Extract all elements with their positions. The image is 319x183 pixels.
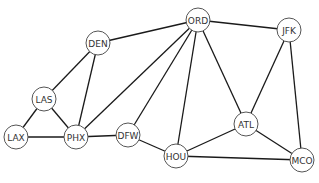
edge-den-phx xyxy=(76,43,98,137)
node-phx: PHX xyxy=(64,125,88,149)
node-label: LAS xyxy=(35,95,52,105)
edge-jfk-mco xyxy=(289,30,302,160)
edge-ord-hou xyxy=(176,20,198,156)
node-label: DFW xyxy=(117,131,138,141)
node-dfw: DFW xyxy=(116,123,140,147)
nodes-layer: DENORDJFKLASLAXPHXDFWHOUATLMCO xyxy=(4,8,314,172)
edge-ord-jfk xyxy=(198,20,289,30)
node-label: MCO xyxy=(291,156,312,166)
edge-den-ord xyxy=(98,20,198,43)
node-lax: LAX xyxy=(4,125,28,149)
node-label: HOU xyxy=(166,152,186,162)
node-label: ORD xyxy=(188,16,208,26)
edges-layer xyxy=(16,20,302,160)
node-label: LAX xyxy=(7,133,25,143)
node-label: JFK xyxy=(281,26,297,36)
edge-ord-atl xyxy=(198,20,246,124)
node-ord: ORD xyxy=(186,8,210,32)
node-mco: MCO xyxy=(290,148,314,172)
node-den: DEN xyxy=(86,31,110,55)
edge-jfk-atl xyxy=(246,30,289,124)
node-jfk: JFK xyxy=(277,18,301,42)
node-atl: ATL xyxy=(234,112,258,136)
node-label: PHX xyxy=(67,133,85,143)
node-hou: HOU xyxy=(164,144,188,168)
node-label: DEN xyxy=(88,39,107,49)
edge-hou-mco xyxy=(176,156,302,160)
node-label: ATL xyxy=(238,120,254,130)
airport-network-graph: DENORDJFKLASLAXPHXDFWHOUATLMCO xyxy=(0,0,319,183)
node-las: LAS xyxy=(32,87,56,111)
